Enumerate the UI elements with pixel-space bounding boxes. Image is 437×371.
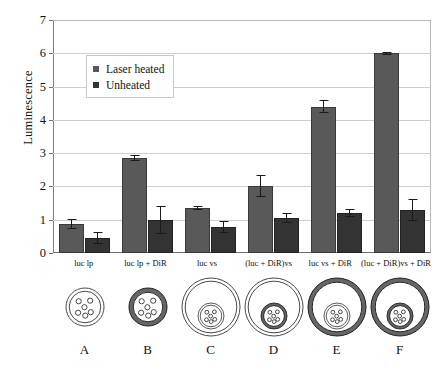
error-bar-D-laser-heated [256,175,265,197]
error-bar-B-laser-heated [130,155,139,161]
y-tick-label-3: 3 [40,147,46,160]
legend-label-laser-heated: Laser heated [106,63,164,75]
bar-wrapper [337,213,362,253]
error-bar-B-unheated [156,206,165,234]
chart-legend: Laser heated Unheated [86,55,174,98]
bar-D-unheated [274,218,299,253]
error-bar-C-laser-heated [193,206,202,210]
error-bar-E-laser-heated [319,100,328,113]
bar-wrapper [59,224,84,253]
legend-label-unheated: Unheated [106,79,150,91]
bar-group-D [242,20,305,253]
bar-wrapper [374,53,399,253]
bar-F-laser-heated [374,53,399,253]
x-axis-label-A: luc lp [53,258,115,268]
y-tick-mark-0 [49,253,53,254]
y-tick-label-6: 6 [40,47,46,60]
bar-C-laser-heated [185,208,210,253]
error-bar-F-unheated [408,199,417,221]
error-bar-A-unheated [93,232,102,243]
bar-wrapper [85,238,110,253]
legend-item-laser-heated: Laser heated [93,63,164,75]
error-bar-A-laser-heated [67,219,76,230]
bar-wrapper [274,218,299,253]
panel-letter-F: F [368,342,431,358]
error-bar-F-laser-heated [382,52,391,55]
y-axis-title: Luminescence [21,18,36,198]
y-tick-label-5: 5 [40,80,46,93]
x-axis-label-C: luc vs [176,258,238,268]
y-tick-label-4: 4 [40,114,46,127]
legend-item-unheated: Unheated [93,79,164,91]
vesicle-diagram-liposome-plain [53,276,116,338]
bar-E-unheated [337,213,362,253]
panel-letter-E: E [305,342,368,358]
bar-wrapper [400,210,425,253]
bar-group-F [368,20,431,253]
bar-group-E [305,20,368,253]
y-tick-label-2: 2 [40,180,46,193]
bar-wrapper [211,227,236,253]
x-axis-label-B: luc lp + DiR [115,258,177,268]
panel-letter-B: B [116,342,179,358]
bar-group-C [179,20,242,253]
bar-wrapper [122,158,147,253]
bar-wrapper [148,220,173,253]
error-bar-C-unheated [219,221,228,233]
panel-letter-row: ABCDEF [53,342,431,358]
luminescence-bar-chart-figure: Luminescence 01234567 Laser heated Unhea… [0,0,437,371]
bar-wrapper [248,186,273,253]
vesicle-diagram-row [53,276,431,338]
vesicle-diagram-vesosome-both-dir [368,276,431,338]
panel-letter-A: A [53,342,116,358]
error-bar-D-unheated [282,213,291,222]
x-axis-category-labels: luc lpluc lp + DiRluc vs(luc + DiR)vsluc… [53,258,431,268]
x-axis-label-D: (luc + DiR)vs [238,258,300,268]
bar-E-laser-heated [311,107,336,253]
legend-swatch-icon-unheated [93,82,99,88]
error-bar-E-unheated [345,209,354,217]
vesicle-diagram-vesosome-plain [179,276,242,338]
bar-wrapper [185,208,210,253]
x-axis-label-E: luc vs + DiR [299,258,361,268]
vesicle-diagram-vesosome-inner-dir [242,276,305,338]
legend-swatch-icon-laser-heated [93,66,99,72]
bar-B-laser-heated [122,158,147,253]
y-tick-label-1: 1 [40,213,46,226]
x-axis-label-F: (luc + DiR)vs + DiR [361,258,431,268]
panel-letter-C: C [179,342,242,358]
panel-letter-D: D [242,342,305,358]
vesicle-diagram-liposome-dir-shell [116,276,179,338]
y-tick-label-0: 0 [40,247,46,260]
vesicle-diagram-vesosome-outer-dir [305,276,368,338]
y-tick-label-7: 7 [40,14,46,27]
bar-wrapper [311,107,336,253]
